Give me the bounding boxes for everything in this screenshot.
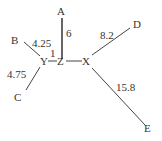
leaf-label-c: C [14,91,21,103]
node-label-y: Y [40,55,48,67]
branch-length-x-d: 8.2 [100,29,114,41]
branch-length-y-z: 1 [50,47,56,59]
branch-length-z-a: 6 [66,27,72,39]
phylogenetic-tree-diagram: A B C D E Y Z X 6 4.25 4.75 1 8.2 15.8 [0,0,162,141]
branch-length-y-b: 4.25 [32,37,52,49]
node-label-x: X [82,55,90,67]
leaf-label-e: E [144,122,151,134]
edge-x-e [92,68,145,125]
leaf-label-a: A [57,5,65,17]
edge-y-c [26,67,40,90]
leaf-label-d: D [133,18,141,30]
leaf-label-b: B [11,34,18,46]
node-label-z: Z [57,55,64,67]
branch-length-x-e: 15.8 [116,81,136,93]
branch-length-y-c: 4.75 [7,68,27,80]
